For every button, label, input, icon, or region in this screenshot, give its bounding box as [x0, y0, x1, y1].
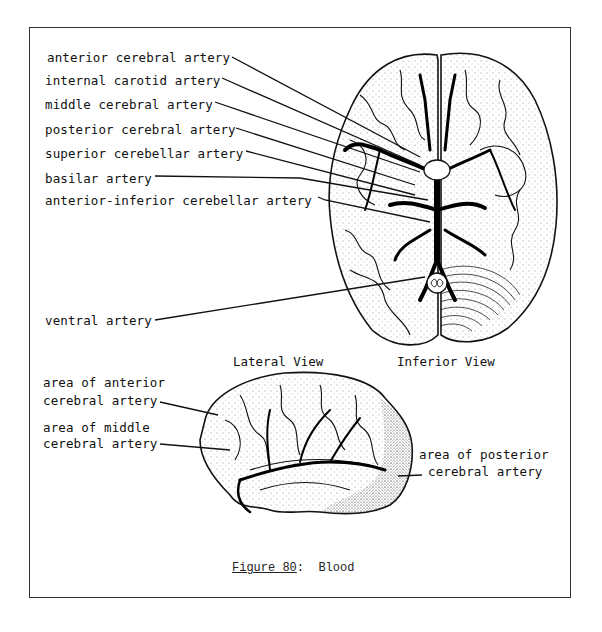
label-line-2: cerebral artery — [43, 436, 157, 451]
label-anterior-cerebral-artery: anterior cerebral artery — [47, 50, 230, 65]
label-basilar-artery: basilar artery — [45, 171, 152, 186]
label-posterior-cerebral-artery: posterior cerebral artery — [45, 122, 236, 137]
label-line-1: area of anterior — [43, 375, 165, 390]
label-area-posterior-cerebral-artery: area of posterior cerebral artery — [419, 447, 549, 479]
figure-title: Blood — [318, 561, 354, 575]
caption-separator: : — [297, 561, 319, 575]
label-line-1: area of posterior — [419, 447, 549, 462]
label-area-anterior-cerebral-artery: area of anterior cerebral artery — [43, 375, 165, 408]
label-internal-carotid-artery: internal carotid artery — [45, 73, 220, 88]
label-anterior-inferior-cerebellar-artery: anterior-inferior cerebellar artery — [45, 193, 312, 208]
label-line-1: area of middle — [43, 420, 157, 435]
inferior-view-brain — [329, 53, 557, 345]
label-line-2: cerebral artery — [419, 464, 549, 479]
label-superior-cerebellar-artery: superior cerebellar artery — [45, 146, 243, 161]
lateral-view-brain — [200, 372, 412, 513]
lateral-view-title: Lateral View — [233, 354, 323, 369]
label-line-2: cerebral artery — [43, 393, 165, 408]
label-ventral-artery: ventral artery — [45, 313, 152, 328]
figure-caption: Figure 80: Blood — [232, 561, 354, 575]
inferior-view-title: Inferior View — [397, 354, 495, 369]
label-middle-cerebral-artery: middle cerebral artery — [45, 97, 213, 112]
figure-number: Figure 80 — [232, 561, 297, 575]
label-area-middle-cerebral-artery: area of middle cerebral artery — [43, 420, 157, 451]
